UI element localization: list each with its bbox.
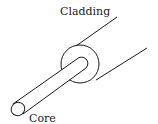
core-label: Core [29,112,56,124]
cladding-lower-edge [96,48,147,80]
cladding-upper-edge [76,17,117,46]
core [9,57,88,118]
fiber-diagram: Cladding Core [0,0,158,124]
cladding-label: Cladding [60,5,110,18]
